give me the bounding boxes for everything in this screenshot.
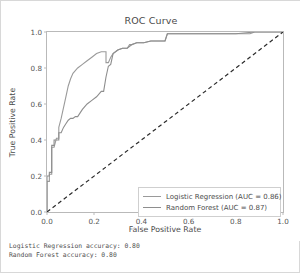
matplotlib-figure: ROC Curve True Positive Rate 0.00.20.40.… <box>1 1 300 241</box>
legend-item-label: Random Forest (AUC = 0.87) <box>166 204 267 212</box>
x-tick-mark <box>283 212 284 215</box>
y-tick-mark <box>44 104 47 105</box>
chart-legend: Logistic Regression (AUC = 0.86) Random … <box>138 187 281 217</box>
x-axis-label: False Positive Rate <box>46 225 284 234</box>
y-axis-label-text: True Positive Rate <box>9 87 18 156</box>
y-tick-mark <box>44 176 47 177</box>
chart-title: ROC Curve <box>1 15 300 26</box>
legend-item-label: Logistic Regression (AUC = 0.86) <box>166 193 282 201</box>
y-tick-label: 0.2 <box>31 172 42 181</box>
y-tick-mark <box>44 32 47 33</box>
y-tick-label: 0.4 <box>31 136 42 145</box>
logistic-regression-accuracy-line: Logistic Regression accuracy: 0.80 <box>9 242 293 251</box>
y-tick-label: 0.8 <box>31 64 42 73</box>
random-forest-accuracy-line: Random Forest accuracy: 0.80 <box>9 251 293 260</box>
legend-line-swatch <box>143 196 161 197</box>
roc-curves-svg <box>47 32 283 212</box>
y-tick-label: 0.0 <box>31 208 42 217</box>
y-tick-label: 1.0 <box>31 28 42 37</box>
y-tick-mark <box>44 140 47 141</box>
y-tick-label: 0.6 <box>31 100 42 109</box>
y-tick-mark <box>44 212 47 213</box>
roc-curve-screenshot: ROC Curve True Positive Rate 0.00.20.40.… <box>0 0 300 273</box>
legend-line-swatch <box>143 207 161 208</box>
accuracy-readout: Logistic Regression accuracy: 0.80 Rando… <box>9 242 293 259</box>
plot-area: 0.00.20.40.60.81.00.00.20.40.60.81.0 <box>46 31 284 213</box>
y-axis-label: True Positive Rate <box>7 31 19 213</box>
y-tick-mark <box>44 68 47 69</box>
legend-item-random-forest: Random Forest (AUC = 0.87) <box>143 202 276 213</box>
x-tick-mark <box>94 212 95 215</box>
series-line <box>47 32 283 212</box>
legend-item-logistic-regression: Logistic Regression (AUC = 0.86) <box>143 191 276 202</box>
